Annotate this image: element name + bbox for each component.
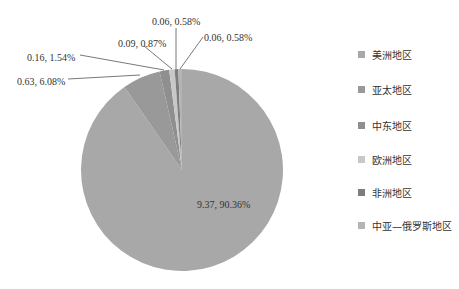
data-label-middle-east: 0.16, 1.54% [27,52,75,63]
data-label-africa: 0.06, 0.58% [152,16,200,27]
legend-swatch-icon [358,122,365,129]
legend-label: 中东地区 [372,118,412,133]
legend-item-europe: 欧洲地区 [358,151,412,167]
legend-swatch-icon [358,156,365,163]
data-label-central-asia-russia: 0.06, 0.58% [204,32,252,43]
legend-label: 中亚—俄罗斯地区 [372,218,452,233]
leader-line-asia-pacific [68,75,140,79]
legend-item-central-asia-russia: 中亚—俄罗斯地区 [358,217,452,233]
legend-item-africa: 非洲地区 [358,184,412,200]
legend-item-americas: 美洲地区 [358,46,412,62]
legend-swatch-icon [358,51,365,58]
pie-slices [81,69,283,271]
legend-item-asia-pacific: 亚太地区 [358,81,412,97]
pie-chart: 9.37, 90.36% 0.63, 6.08% 0.16, 1.54% 0.0… [0,0,459,289]
data-label-americas: 9.37, 90.36% [197,199,250,210]
legend-label: 非洲地区 [372,185,412,200]
legend-label: 欧洲地区 [372,152,412,167]
data-label-asia-pacific: 0.63, 6.08% [17,76,65,87]
leader-line-middle-east [80,55,164,70]
legend-swatch-icon [358,86,365,93]
legend-swatch-icon [358,189,365,196]
legend-label: 亚太地区 [372,82,412,97]
legend-item-middle-east: 中东地区 [358,117,412,133]
legend-swatch-icon [358,222,365,229]
data-label-europe: 0.09, 0.87% [118,38,166,49]
legend-label: 美洲地区 [372,47,412,62]
leader-line-europe [144,46,172,69]
leader-line-central-asia-russia [180,37,203,69]
